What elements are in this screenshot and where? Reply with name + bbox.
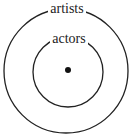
artists-label: artists [50,1,83,16]
euler-diagram: artists actors [0,0,129,135]
actors-label: actors [52,31,85,46]
center-dot [65,67,71,73]
